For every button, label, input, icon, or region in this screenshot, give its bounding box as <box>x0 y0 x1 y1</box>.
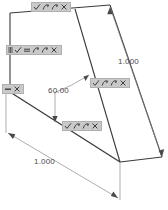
close-icon[interactable] <box>13 85 21 93</box>
edge-base-bottom[interactable] <box>120 157 162 162</box>
dimension-label-base-length[interactable]: 1.000 <box>34 158 55 166</box>
geometry-edges[interactable] <box>10 5 162 162</box>
curve-icon[interactable] <box>82 122 90 130</box>
check-icon[interactable] <box>92 79 100 87</box>
dimension-angle[interactable] <box>52 75 89 122</box>
dimension-label-incline-length[interactable]: 1.000 <box>118 58 139 66</box>
check-icon[interactable] <box>64 122 72 130</box>
arrowhead-incline-bottom <box>159 149 165 157</box>
dimension-base-length[interactable] <box>6 92 120 200</box>
curve-icon[interactable] <box>42 3 50 11</box>
arrowhead-base-right <box>111 191 118 198</box>
check-icon[interactable] <box>33 3 41 11</box>
close-icon[interactable] <box>119 79 127 87</box>
parallel-bars-icon[interactable] <box>8 46 13 54</box>
sketch-canvas[interactable] <box>0 0 168 210</box>
dimension-line-base <box>8 133 118 198</box>
constraint-badge-left-edge[interactable] <box>6 45 62 55</box>
close-icon[interactable] <box>60 3 68 11</box>
constraint-badge-front-slope[interactable] <box>62 121 102 131</box>
constraint-badge-incline-face[interactable] <box>90 78 130 88</box>
equals-icon[interactable] <box>23 46 31 54</box>
constraint-badge-left-vertex[interactable] <box>2 84 24 94</box>
curve-icon[interactable] <box>73 122 81 130</box>
curve-icon[interactable] <box>51 3 59 11</box>
dimension-label-angle[interactable]: 60.00 <box>48 87 69 95</box>
constraint-badge-top-edge[interactable] <box>31 2 71 12</box>
check-icon[interactable] <box>14 46 22 54</box>
curve-icon[interactable] <box>101 79 109 87</box>
curve-icon[interactable] <box>110 79 118 87</box>
arrowhead-angle-upper <box>84 75 90 81</box>
arrowhead-base-left <box>8 133 15 139</box>
sketch-viewport[interactable]: 1.000 60.00 1.000 <box>0 0 168 210</box>
close-icon[interactable] <box>91 122 99 130</box>
dash-icon[interactable] <box>4 85 12 93</box>
curve-icon[interactable] <box>41 46 49 54</box>
close-icon[interactable] <box>50 46 58 54</box>
curve-icon[interactable] <box>32 46 40 54</box>
